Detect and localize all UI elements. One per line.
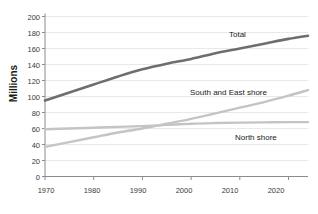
y-tick-40: 40 bbox=[14, 141, 40, 150]
y-tick-200: 200 bbox=[14, 13, 40, 22]
x-tick-2000: 2000 bbox=[167, 186, 201, 195]
x-tick-1980: 1980 bbox=[75, 186, 109, 195]
x-tick-2020: 2020 bbox=[259, 186, 293, 195]
y-tick-120: 120 bbox=[14, 77, 40, 86]
chart-plot-area bbox=[0, 0, 318, 214]
y-tick-100: 100 bbox=[14, 93, 40, 102]
y-tick-0: 0 bbox=[14, 173, 40, 182]
x-tick-marks bbox=[45, 177, 289, 181]
y-tick-80: 80 bbox=[14, 109, 40, 118]
gridlines bbox=[45, 17, 308, 177]
y-tick-160: 160 bbox=[14, 45, 40, 54]
y-tick-180: 180 bbox=[14, 29, 40, 38]
series-label-north-shore: North shore bbox=[235, 133, 277, 142]
series-lines bbox=[45, 36, 308, 147]
x-tick-2010: 2010 bbox=[213, 186, 247, 195]
y-tick-140: 140 bbox=[14, 61, 40, 70]
x-tick-1970: 1970 bbox=[29, 186, 63, 195]
series-label-south-east-shore: South and East shore bbox=[190, 88, 267, 97]
x-tick-1990: 1990 bbox=[121, 186, 155, 195]
series-label-total: Total bbox=[229, 30, 246, 39]
y-tick-60: 60 bbox=[14, 125, 40, 134]
axis-lines bbox=[45, 14, 308, 177]
line-chart: Millions 200 180 160 140 120 100 80 60 4… bbox=[0, 0, 318, 214]
y-tick-20: 20 bbox=[14, 157, 40, 166]
